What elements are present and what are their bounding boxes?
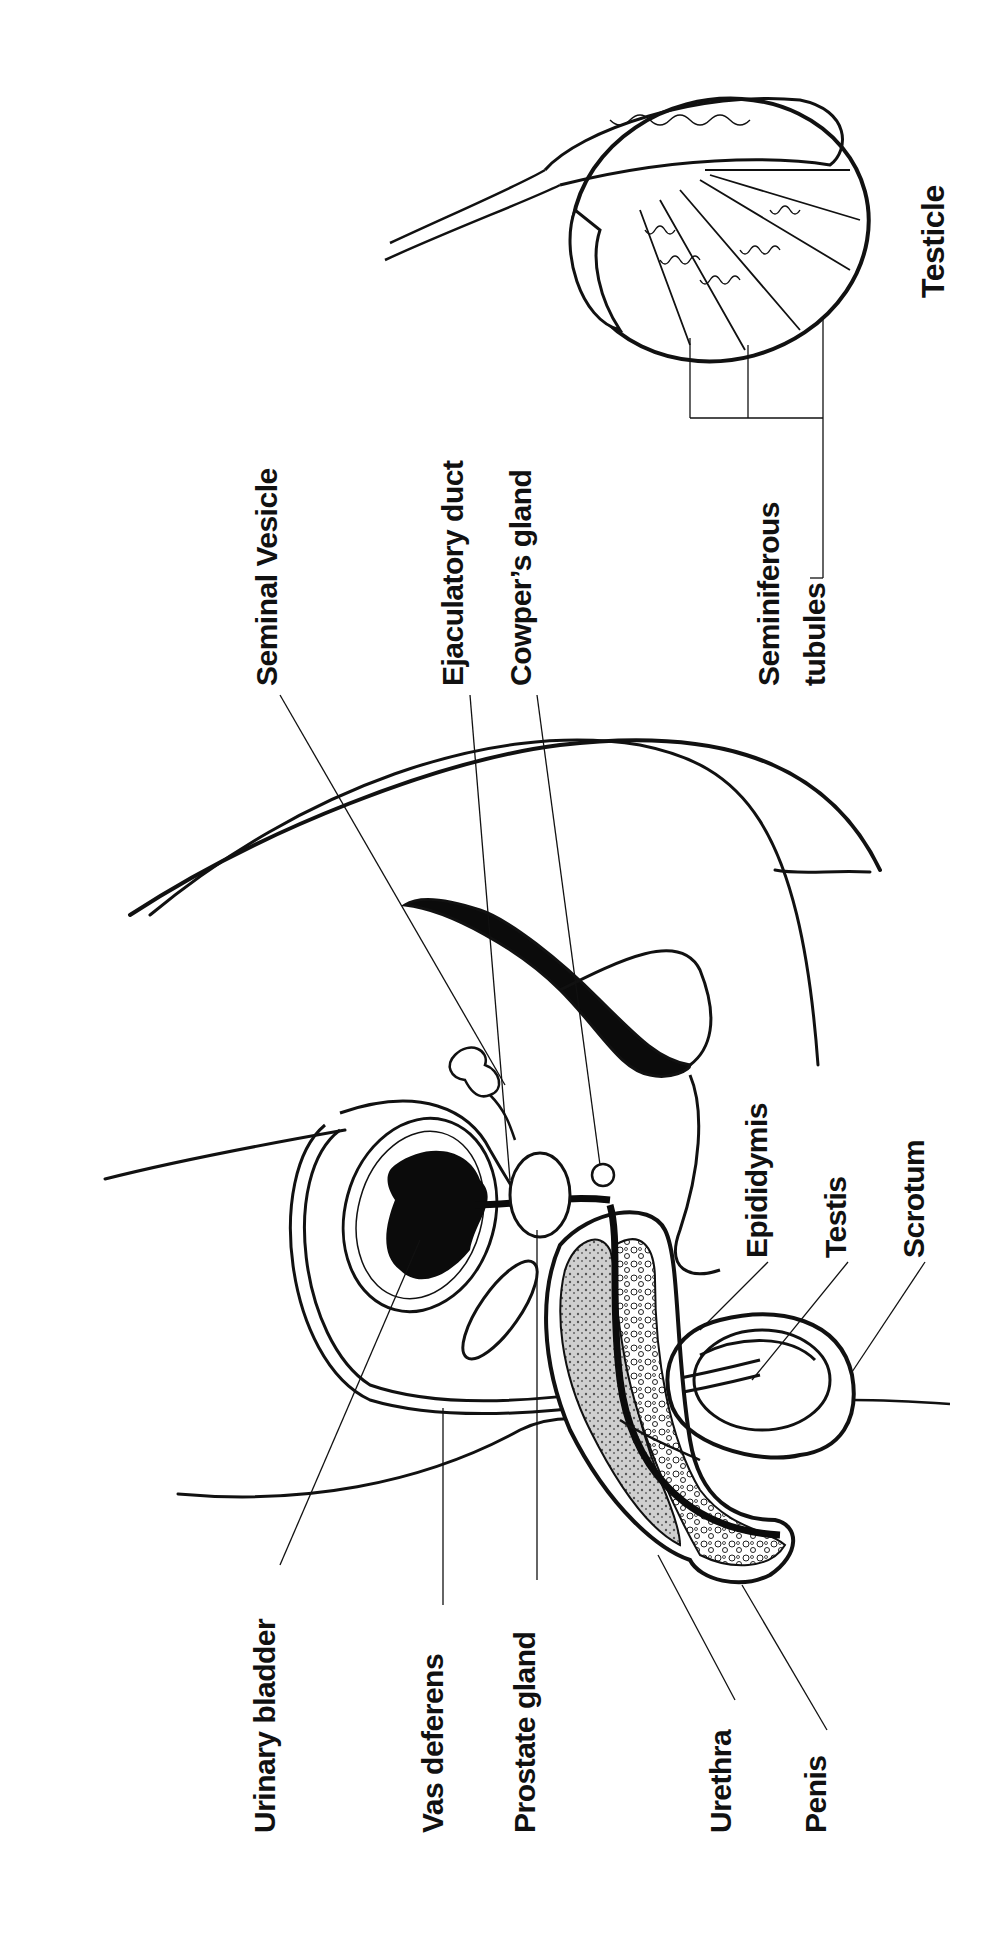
label-urethra: Urethra	[706, 1730, 736, 1833]
label-tubules: tubules	[800, 583, 830, 686]
label-vas-deferens: Vas deferens	[418, 1654, 448, 1833]
label-penis: Penis	[801, 1755, 831, 1833]
label-testicle: Testicle	[917, 185, 949, 298]
label-urinary-bladder: Urinary bladder	[250, 1619, 280, 1833]
label-scrotum: Scrotum	[899, 1140, 929, 1258]
male-reproductive-anatomy-diagram	[0, 0, 1005, 1940]
cowpers-gland	[592, 1164, 614, 1186]
label-prostate-gland: Prostate gland	[510, 1632, 540, 1833]
label-seminal-vesicle: Seminal Vesicle	[252, 468, 282, 686]
label-ejaculatory-duct: Ejaculatory duct	[438, 461, 468, 686]
pubic-bone	[450, 1251, 549, 1369]
label-cowpers-gland: Cowper’s gland	[506, 470, 536, 686]
label-testis: Testis	[821, 1177, 851, 1258]
testicle-cross-section	[385, 66, 899, 395]
prostate-gland	[510, 1153, 570, 1237]
label-epididymis: Epididymis	[742, 1103, 772, 1258]
label-seminiferous: Seminiferous	[754, 502, 784, 686]
